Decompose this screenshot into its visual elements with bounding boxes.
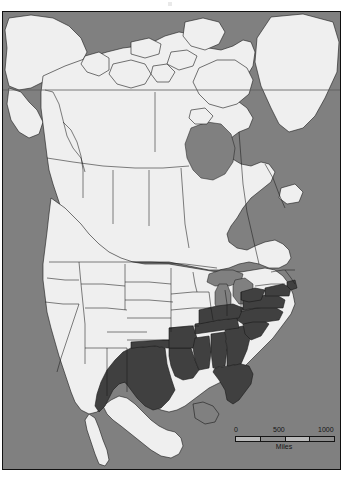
scale-bar-track bbox=[235, 436, 335, 442]
scale-segment-3 bbox=[286, 437, 311, 441]
scale-segment-2 bbox=[261, 437, 286, 441]
scale-segment-4 bbox=[310, 437, 334, 441]
page-artifact-speck bbox=[168, 2, 172, 6]
scale-tick-500: 500 bbox=[273, 426, 285, 434]
highlight-alabama[interactable] bbox=[211, 332, 227, 368]
scale-units-label: Miles bbox=[234, 443, 334, 451]
scale-segment-1 bbox=[236, 437, 261, 441]
north-america-map[interactable] bbox=[3, 12, 340, 469]
map-frame: 0 500 1000 Miles bbox=[2, 11, 341, 470]
map-figure: 0 500 1000 Miles bbox=[0, 0, 343, 477]
highlight-arkansas[interactable] bbox=[169, 326, 197, 348]
scale-tick-labels: 0 500 1000 bbox=[234, 426, 338, 436]
scale-tick-0: 0 bbox=[234, 426, 238, 434]
scale-bar: 0 500 1000 Miles bbox=[234, 426, 338, 452]
scale-tick-1000: 1000 bbox=[318, 426, 334, 434]
